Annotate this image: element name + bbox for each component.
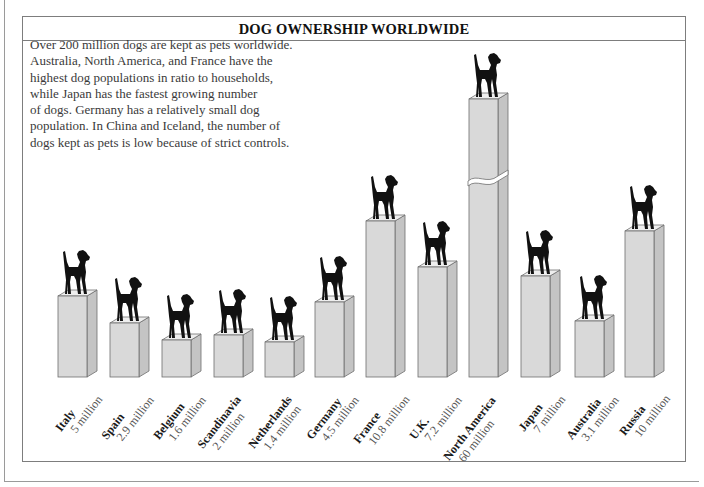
dog-silhouette-icon <box>630 185 657 229</box>
bar-side-face <box>294 336 304 377</box>
bar-spain <box>110 277 149 377</box>
dog-silhouette-icon <box>219 289 246 333</box>
bar-front-face <box>265 342 294 377</box>
bar-belgium <box>162 294 201 377</box>
dog-silhouette-icon <box>580 275 607 319</box>
dog-silhouette-icon <box>371 175 398 219</box>
dog-silhouette-icon <box>526 230 553 274</box>
bar-side-face <box>139 317 149 377</box>
dog-silhouette-icon <box>167 294 194 338</box>
bar-side-face <box>243 329 253 377</box>
bar-russia <box>625 185 664 377</box>
bar-netherlands <box>265 296 304 377</box>
bar-front-face <box>575 321 604 377</box>
bar-front-face <box>214 335 243 377</box>
bar-front-face <box>366 221 395 377</box>
dog-silhouette-icon <box>320 256 347 300</box>
bar-side-face <box>654 225 664 377</box>
bar-front-face <box>521 276 550 377</box>
bar-side-face <box>395 215 405 377</box>
bar-front-face <box>625 231 654 377</box>
bar-side-face <box>191 334 201 377</box>
dog-silhouette-icon <box>63 250 90 294</box>
bar-side-face <box>498 93 508 377</box>
bar-front-face <box>469 99 498 377</box>
bar-scandinavia <box>214 289 253 377</box>
bar-side-face <box>604 315 614 377</box>
bar-side-face <box>550 270 560 377</box>
bar-australia <box>575 275 614 377</box>
bar-front-face <box>315 302 344 377</box>
dog-silhouette-icon <box>423 221 450 265</box>
bar-side-face <box>447 261 457 377</box>
bar-front-face <box>110 323 139 377</box>
dog-silhouette-icon <box>115 277 142 321</box>
bar-side-face <box>344 296 354 377</box>
bar-japan <box>521 230 560 377</box>
bar-front-face <box>162 340 191 377</box>
bar-u-k- <box>418 221 457 377</box>
bar-france <box>366 175 405 377</box>
bar-north-america <box>468 53 508 377</box>
bar-germany <box>315 256 354 377</box>
dog-silhouette-icon <box>270 296 297 340</box>
bar-front-face <box>418 267 447 377</box>
bar-italy <box>58 250 97 377</box>
bar-front-face <box>58 296 87 377</box>
dog-silhouette-icon <box>474 53 501 97</box>
bar-side-face <box>87 290 97 377</box>
bars-layer <box>58 53 664 377</box>
